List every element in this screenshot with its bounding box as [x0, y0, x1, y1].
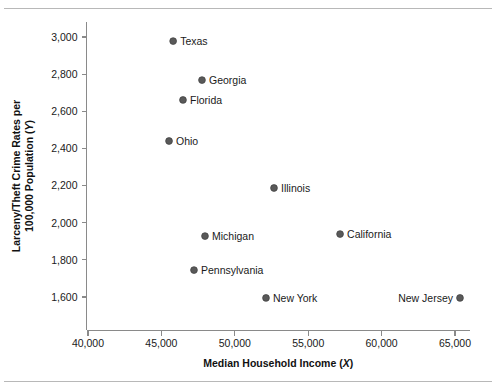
data-point-marker[interactable]	[180, 97, 187, 104]
data-point-marker[interactable]	[263, 295, 270, 302]
data-point-label: New York	[273, 292, 318, 304]
data-point-marker[interactable]	[337, 231, 344, 238]
y-tick-label: 1,600	[51, 291, 77, 303]
x-tick-label: 45,000	[145, 337, 177, 349]
data-point-marker[interactable]	[202, 233, 209, 240]
x-axis-ticks: 40,00045,00050,00055,00060,00065,000	[72, 331, 471, 349]
data-point-label: Pennsylvania	[201, 264, 264, 276]
x-tick-label: 55,000	[292, 337, 324, 349]
y-axis: 1,6001,8002,0002,2002,4002,6002,8003,000	[51, 22, 86, 330]
data-point-marker[interactable]	[170, 38, 177, 45]
data-point-label: Florida	[190, 94, 222, 106]
y-tick-label: 2,800	[51, 68, 77, 80]
y-tick-label: 2,200	[51, 179, 77, 191]
data-point-label: Georgia	[209, 74, 247, 86]
x-tick-label: 50,000	[219, 337, 251, 349]
data-point-marker[interactable]	[457, 295, 464, 302]
data-point-label: New Jersey	[398, 292, 454, 304]
x-tick-label: 65,000	[439, 337, 471, 349]
data-point-label: Texas	[180, 35, 207, 47]
data-point-marker[interactable]	[191, 267, 198, 274]
y-tick-label: 2,600	[51, 105, 77, 117]
data-point-series: TexasGeorgiaFloridaOhioIllinoisCaliforni…	[166, 35, 464, 304]
y-axis-ticks: 1,6001,8002,0002,2002,4002,6002,8003,000	[51, 31, 86, 303]
plot-canvas: 1,6001,8002,0002,2002,4002,6002,8003,000…	[0, 0, 496, 390]
x-tick-label: 40,000	[72, 337, 104, 349]
y-tick-label: 1,800	[51, 254, 77, 266]
data-point-label: Illinois	[281, 182, 310, 194]
y-tick-label: 2,400	[51, 142, 77, 154]
data-point-marker[interactable]	[271, 185, 278, 192]
data-point-label: California	[347, 228, 392, 240]
y-axis-title-line1: Larceny/Theft Crime Rates per	[10, 100, 22, 252]
x-axis: 40,00045,00050,00055,00060,00065,000	[72, 331, 471, 349]
y-axis-title-line2: 100,000 Population (Y)	[23, 120, 35, 232]
data-point-label: Ohio	[176, 135, 198, 147]
data-point-marker[interactable]	[166, 138, 173, 145]
data-point-marker[interactable]	[199, 77, 206, 84]
x-axis-title: Median Household Income (X)	[203, 357, 353, 369]
data-point-label: Michigan	[212, 230, 254, 242]
y-tick-label: 2,000	[51, 217, 77, 229]
y-tick-label: 3,000	[51, 31, 77, 43]
scatter-plot-figure: 1,6001,8002,0002,2002,4002,6002,8003,000…	[0, 0, 496, 390]
x-tick-label: 60,000	[366, 337, 398, 349]
